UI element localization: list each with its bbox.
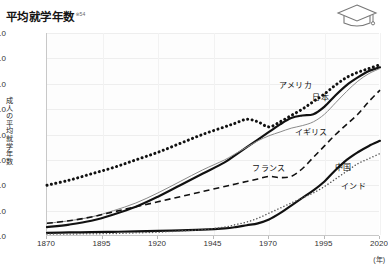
gridline [380,33,381,235]
x-axis-unit: (年) [373,254,385,264]
series-label: イギリス [295,126,328,137]
series-label: インド [341,180,366,191]
y-axis-tick-label: 12.0 [0,80,6,89]
series-line [47,69,380,224]
x-axis-tick-label: 1995 [315,239,333,248]
y-axis-tick-label: 8.0 [0,131,6,140]
series-line [47,67,380,227]
x-axis-tick-label: 1945 [204,239,222,248]
y-axis-tick-label: 4.0 [0,181,6,190]
plot-area [46,33,379,236]
y-axis-tick-label: 16.0 [0,29,6,38]
x-axis-tick-label: 2020 [370,239,388,248]
series-label: アメリカ [279,79,312,90]
page-title-text: 平均就学年数 [6,11,74,23]
x-axis-tick-label: 1895 [93,239,111,248]
x-axis-tick-label: 1920 [148,239,166,248]
page-title: 平均就学年数※54 [6,8,85,24]
series-layer [47,33,380,236]
title-footnote-marker: ※54 [75,11,85,17]
series-label: 中国 [335,161,351,172]
graduation-cap-icon [335,1,379,31]
y-axis-tick-label: 6.0 [0,156,6,165]
series-label: フランス [252,162,285,173]
series-line [47,154,380,235]
series-line [47,90,380,223]
y-axis-tick-label: 10.0 [0,105,6,114]
y-axis-tick-label: 2.0 [0,207,6,216]
x-axis-tick-label: 1970 [259,239,277,248]
series-label: 日本 [312,91,328,102]
y-axis-tick-label: 14.0 [0,54,6,63]
x-axis-tick-label: 1870 [37,239,55,248]
y-axis-tick-label: 0.0 [0,232,6,241]
